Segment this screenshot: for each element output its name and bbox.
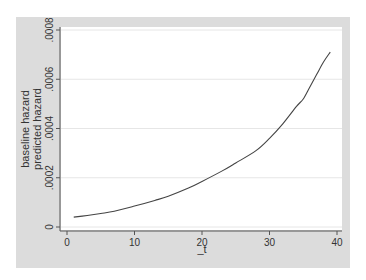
- y-tick-label: .0006: [44, 66, 55, 91]
- y-tick-label: .0002: [44, 165, 55, 190]
- hazard-line-chart: 0.0002.0004.0006.0008 010203040 _t basel…: [16, 17, 350, 268]
- y-axis-ticks: 0.0002.0004.0006.0008: [44, 17, 60, 230]
- x-tick-label: 10: [129, 237, 141, 248]
- y-axis-title-line-1: baseline hazard: [19, 90, 31, 168]
- y-tick-label: .0004: [44, 116, 55, 141]
- y-tick-label: 0: [44, 224, 55, 230]
- x-tick-label: 0: [64, 237, 70, 248]
- chart-frame: 0.0002.0004.0006.0008 010203040 _t basel…: [16, 17, 350, 268]
- x-tick-label: 30: [264, 237, 276, 248]
- x-tick-label: 40: [331, 237, 343, 248]
- y-tick-label: .0008: [44, 17, 55, 42]
- x-axis-title: _t: [196, 243, 206, 255]
- y-axis-title-line-2: predicted hazard: [31, 88, 43, 170]
